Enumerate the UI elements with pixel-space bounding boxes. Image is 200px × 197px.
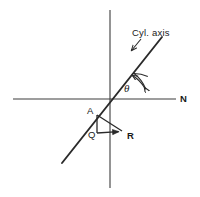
cylinder-axis-diagram: Cyl. axis θ N A Q R bbox=[0, 0, 200, 197]
theta-label: θ bbox=[124, 82, 130, 94]
point-q-label: Q bbox=[88, 129, 95, 140]
point-a-label: A bbox=[87, 105, 94, 116]
cyl-axis-label: Cyl. axis bbox=[132, 27, 170, 38]
north-axis-label: N bbox=[180, 93, 187, 104]
point-r-label: R bbox=[127, 130, 134, 141]
figure-container: Cyl. axis θ N A Q R bbox=[0, 0, 200, 197]
